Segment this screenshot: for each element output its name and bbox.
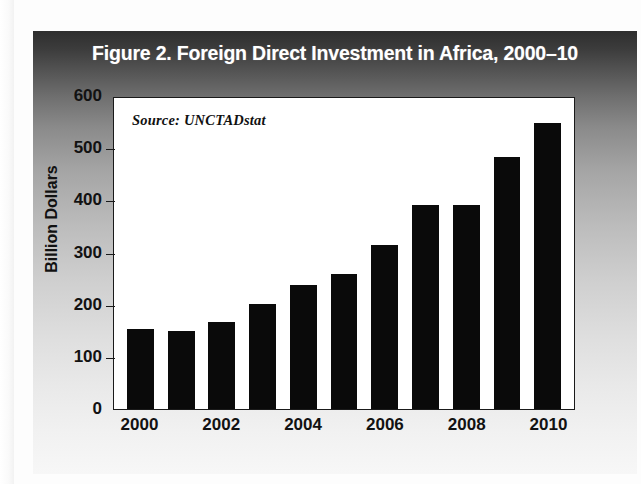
x-tick-label-2008: 2008	[448, 415, 486, 435]
x-tick-label-2010: 2010	[530, 415, 568, 435]
bar-2010	[534, 123, 561, 409]
scanned-page: Figure 2. Foreign Direct Investment in A…	[0, 0, 641, 484]
bar-slot	[446, 98, 487, 409]
y-tick-mark-100	[106, 358, 115, 359]
bar-2004	[290, 285, 317, 409]
y-tick-mark-400	[106, 201, 115, 202]
bar-slot	[324, 98, 365, 409]
y-tick-mark-500	[106, 149, 115, 150]
plot-area: Source: UNCTADstat	[113, 97, 575, 410]
y-tick-mark-200	[106, 306, 115, 307]
bar-2009	[494, 157, 521, 409]
y-tick-label-0: 0	[42, 399, 102, 419]
bar-2008	[453, 205, 480, 409]
bar-slot	[527, 98, 568, 409]
y-tick-mark-300	[106, 254, 115, 255]
figure-title: Figure 2. Foreign Direct Investment in A…	[33, 42, 637, 65]
y-tick-label-300: 300	[42, 243, 102, 263]
y-tick-label-200: 200	[42, 295, 102, 315]
bar-slot	[120, 98, 161, 409]
x-axis-labels: 200020022004200620082010	[113, 415, 575, 443]
page-edge-shadow	[0, 0, 14, 484]
bar-2003	[249, 304, 276, 409]
bar-2000	[127, 329, 154, 409]
bar-series	[114, 98, 574, 409]
bar-2002	[208, 322, 235, 409]
bar-slot	[161, 98, 202, 409]
y-axis-labels: 0100200300400500600	[36, 0, 102, 484]
y-tick-label-100: 100	[42, 347, 102, 367]
x-tick-label-2004: 2004	[284, 415, 322, 435]
bar-2005	[331, 274, 358, 409]
bar-slot	[364, 98, 405, 409]
bar-slot	[201, 98, 242, 409]
bar-slot	[405, 98, 446, 409]
bar-2006	[371, 245, 398, 409]
x-tick-label-2006: 2006	[366, 415, 404, 435]
bar-slot	[242, 98, 283, 409]
bar-2007	[412, 205, 439, 409]
bar-slot	[283, 98, 324, 409]
bar-slot	[487, 98, 528, 409]
y-tick-label-600: 600	[42, 86, 102, 106]
y-tick-label-400: 400	[42, 190, 102, 210]
bar-2001	[168, 331, 195, 409]
x-tick-label-2002: 2002	[202, 415, 240, 435]
y-tick-label-500: 500	[42, 138, 102, 158]
x-tick-label-2000: 2000	[121, 415, 159, 435]
